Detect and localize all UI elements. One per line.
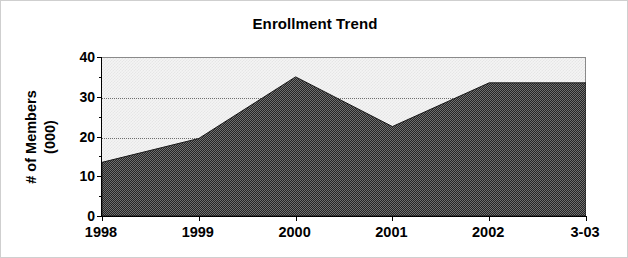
x-tick-label-2001: 2001 xyxy=(356,223,426,241)
y-minor-tick-35 xyxy=(99,77,102,78)
x-tick-label-2002: 2002 xyxy=(453,223,523,241)
y-tick-label-10: 10 xyxy=(63,169,95,183)
y-axis-title-line-2: (000) xyxy=(41,57,59,217)
y-tick-label-40: 40 xyxy=(63,50,95,64)
y-tick-mark-40 xyxy=(97,57,102,58)
area-series-enrollment xyxy=(102,57,586,216)
x-axis-tick-labels: 199819992000200120023-03 xyxy=(101,223,585,247)
y-minor-tick-15 xyxy=(99,156,102,157)
y-tick-label-20: 20 xyxy=(63,130,95,144)
y-minor-tick-5 xyxy=(99,196,102,197)
enrollment-trend-chart: Enrollment Trend # of Members (000) 0102… xyxy=(1,1,627,257)
y-axis-title-line-1: # of Members xyxy=(22,57,40,217)
chart-title: Enrollment Trend xyxy=(1,15,628,32)
chart-screenshot: Enrollment Trend # of Members (000) 0102… xyxy=(0,0,628,258)
x-tick-mark-2001 xyxy=(392,216,393,221)
y-minor-tick-25 xyxy=(99,117,102,118)
x-tick-mark-2002 xyxy=(489,216,490,221)
x-tick-label-3-03: 3-03 xyxy=(550,223,620,241)
y-tick-label-0: 0 xyxy=(63,209,95,223)
plot-area xyxy=(101,57,586,217)
y-tick-mark-20 xyxy=(97,137,102,138)
x-tick-mark-2000 xyxy=(296,216,297,221)
y-tick-mark-30 xyxy=(97,97,102,98)
x-tick-label-1999: 1999 xyxy=(163,223,233,241)
x-tick-mark-1999 xyxy=(199,216,200,221)
x-tick-label-2000: 2000 xyxy=(260,223,330,241)
x-tick-mark-3-03 xyxy=(586,216,587,221)
y-axis-tick-labels: 010203040 xyxy=(63,1,95,258)
x-tick-label-1998: 1998 xyxy=(66,223,136,241)
x-tick-mark-1998 xyxy=(102,216,103,221)
y-tick-label-30: 30 xyxy=(63,90,95,104)
y-tick-mark-10 xyxy=(97,176,102,177)
